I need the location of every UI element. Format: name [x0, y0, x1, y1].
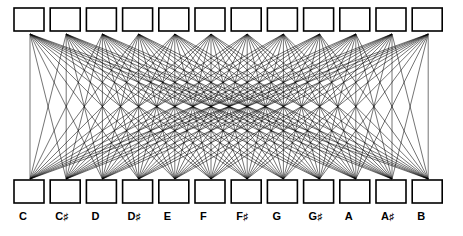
- bottom-node-box-Csharp[interactable]: [50, 180, 80, 203]
- bottom-node-box-Gsharp[interactable]: [304, 180, 334, 203]
- top-node-box-Dsharp[interactable]: [123, 8, 153, 31]
- top-node-box-Csharp[interactable]: [50, 8, 80, 31]
- label-a: A: [345, 210, 353, 223]
- bottom-node-box-E[interactable]: [159, 180, 189, 203]
- sharp-icon: ♯: [63, 211, 68, 222]
- label-cs: C♯: [55, 210, 68, 223]
- edge-layer: [30, 34, 428, 179]
- label-fs: F♯: [236, 210, 248, 223]
- bottom-node-box-G[interactable]: [267, 180, 297, 203]
- bottom-node-box-Asharp[interactable]: [376, 180, 406, 203]
- top-node-box-D[interactable]: [86, 8, 116, 31]
- label-g: G: [272, 210, 281, 223]
- note-letter: B: [417, 210, 425, 222]
- bottom-node-box-Dsharp[interactable]: [123, 180, 153, 203]
- label-c: C: [19, 210, 27, 223]
- label-e: E: [164, 210, 171, 223]
- top-node-box-F[interactable]: [195, 8, 225, 31]
- label-b: B: [417, 210, 425, 223]
- top-node-box-Fsharp[interactable]: [231, 8, 261, 31]
- label-ds: D♯: [128, 210, 141, 223]
- note-letter: D: [91, 210, 99, 222]
- sharp-icon: ♯: [389, 211, 394, 222]
- top-node-row: [14, 8, 442, 31]
- bottom-node-box-B[interactable]: [412, 180, 442, 203]
- top-node-box-Asharp[interactable]: [376, 8, 406, 31]
- sharp-icon: ♯: [136, 211, 141, 222]
- note-letter: A: [345, 210, 353, 222]
- bottom-node-row: [14, 180, 442, 203]
- bottom-node-box-C[interactable]: [14, 180, 44, 203]
- top-node-box-A[interactable]: [340, 8, 370, 31]
- label-gs: G♯: [309, 210, 323, 223]
- note-letter: A: [381, 210, 389, 222]
- note-letter: F: [200, 210, 207, 222]
- label-f: F: [200, 210, 207, 223]
- bottom-node-box-Fsharp[interactable]: [231, 180, 261, 203]
- diagram-canvas: CC♯DD♯EFF♯GG♯AA♯B: [0, 0, 463, 236]
- top-node-box-G[interactable]: [267, 8, 297, 31]
- top-node-box-C[interactable]: [14, 8, 44, 31]
- note-letter: C: [55, 210, 63, 222]
- top-node-box-B[interactable]: [412, 8, 442, 31]
- label-d: D: [91, 210, 99, 223]
- bottom-node-box-A[interactable]: [340, 180, 370, 203]
- bipartite-graph-svg: [0, 0, 463, 236]
- note-letter: C: [19, 210, 27, 222]
- note-letter: E: [164, 210, 171, 222]
- note-letter: G: [309, 210, 318, 222]
- sharp-icon: ♯: [317, 211, 322, 222]
- sharp-icon: ♯: [243, 211, 248, 222]
- top-node-box-E[interactable]: [159, 8, 189, 31]
- bottom-node-box-D[interactable]: [86, 180, 116, 203]
- note-letter: G: [272, 210, 281, 222]
- bottom-node-box-F[interactable]: [195, 180, 225, 203]
- note-letter: F: [236, 210, 243, 222]
- note-letter: D: [128, 210, 136, 222]
- label-as: A♯: [381, 210, 394, 223]
- top-node-box-Gsharp[interactable]: [304, 8, 334, 31]
